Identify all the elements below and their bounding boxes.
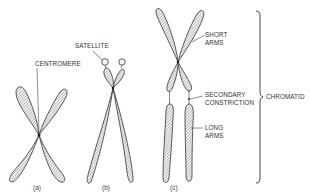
chromosome-c-upper-right-arm	[178, 11, 204, 62]
chromosome-c-long-arm-right	[185, 104, 193, 181]
chromosome-c-lower-left-arm	[167, 62, 178, 91]
chromosome-a-upper-left-arm	[16, 87, 39, 135]
centromere-label: CENTROMERE	[35, 60, 81, 67]
satellite-left	[102, 59, 109, 66]
chromosome-a-lower-left-arm	[9, 135, 39, 182]
secondary-constriction-leader-line	[190, 96, 203, 99]
satellite-leader-line	[93, 51, 102, 60]
chromosome-c-lower-right-arm	[178, 62, 192, 91]
centromere-b-dot	[112, 87, 115, 90]
chromosome-a-upper-right-arm	[39, 89, 67, 135]
chromosome-a-lower-right-arm	[39, 135, 65, 182]
satellite-right	[119, 59, 125, 65]
secondary-constriction-label-line2: CONSTRICTION	[205, 99, 254, 106]
short-arms-label-line2: ARMS	[205, 39, 224, 46]
long-arms-label-line1: LONG	[205, 124, 223, 131]
panel-a: CENTROMERE (a)	[9, 60, 80, 192]
chromosome-diagram: CENTROMERE (a) SATELLITE (b)	[0, 0, 310, 194]
short-arms-label-line1: SHORT	[205, 31, 227, 38]
chromatid-brace-group: CHROMATID	[256, 11, 305, 183]
secondary-constriction-label-line1: SECONDARY	[205, 91, 246, 98]
centromere-c-dot	[177, 61, 180, 64]
chromosome-b-short-arm-right	[113, 69, 124, 88]
chromosome-b-long-arm-left	[87, 88, 113, 183]
caption-a: (a)	[33, 184, 41, 192]
satellite-label: SATELLITE	[75, 42, 109, 49]
long-arms-label-line2: ARMS	[205, 132, 224, 139]
chromosome-b-short-arm-left	[104, 68, 114, 88]
chromosome-c-long-arm-left	[163, 104, 173, 183]
panel-b: SATELLITE (b)	[75, 42, 133, 192]
chromatid-label: CHROMATID	[266, 93, 305, 100]
curly-brace	[256, 11, 263, 183]
chromosome-c-upper-left-arm	[156, 9, 178, 62]
panel-c: SHORT ARMS SECONDARY CONSTRICTION LONG A…	[156, 9, 255, 192]
chromosome-b-long-arm-right	[113, 88, 133, 183]
caption-b: (b)	[102, 184, 110, 192]
caption-c: (c)	[170, 184, 178, 192]
